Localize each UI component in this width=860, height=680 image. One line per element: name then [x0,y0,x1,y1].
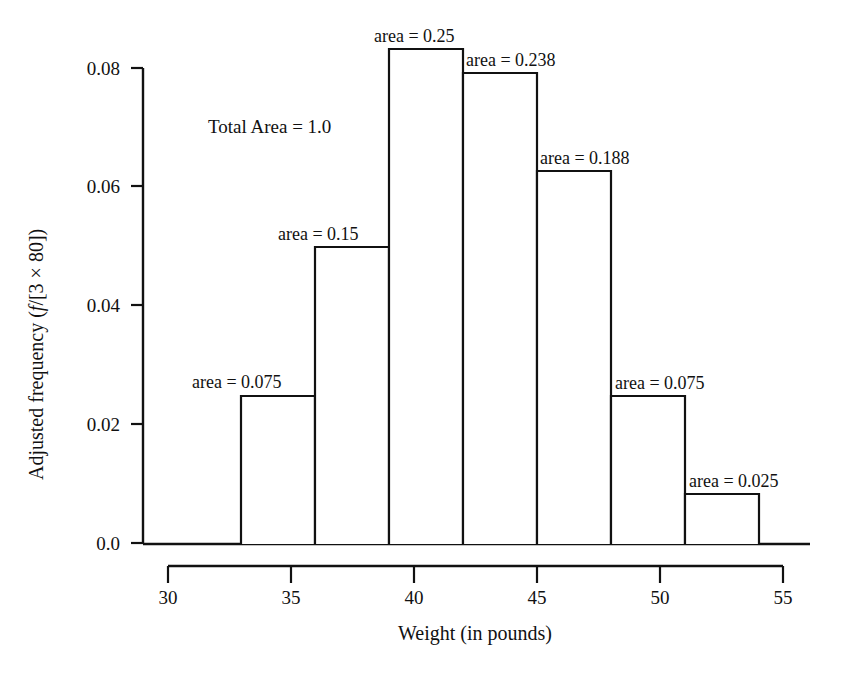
bar-39-42 [389,49,463,544]
x-axis-title: Weight (in pounds) [275,623,675,643]
area-label-bar-5: area = 0.188 [540,149,630,167]
total-area-annotation: Total Area = 1.0 [208,117,331,136]
x-tick-label-55: 55 [753,588,813,607]
area-label-bar-4: area = 0.238 [466,51,556,69]
area-label-bar-7: area = 0.025 [689,472,779,490]
x-axis-ruler [168,566,783,583]
y-tick-label-006: 0.06 [48,177,120,196]
area-label-bar-3: area = 0.25 [374,27,455,45]
bar-45-48 [537,171,611,544]
bar-48-51 [611,396,685,544]
x-tick-label-30: 30 [138,588,198,607]
bar-51-54 [685,494,759,544]
bar-42-45 [463,73,537,544]
y-axis-title-prefix: Adjusted frequency ( [25,311,47,480]
y-axis-title-italic-f: f [25,306,47,312]
y-tick-label-008: 0.08 [48,59,120,78]
bar-36-39 [315,247,389,544]
y-tick-label-004: 0.04 [48,296,120,315]
x-tick-label-35: 35 [261,588,321,607]
bar-33-36 [241,396,315,544]
x-tick-label-40: 40 [384,588,444,607]
area-label-bar-2: area = 0.15 [278,225,359,243]
x-tick-label-50: 50 [630,588,690,607]
area-label-bar-1: area = 0.075 [192,373,282,391]
y-tick-label-002: 0.02 [48,415,120,434]
histogram-plot-area [0,0,860,680]
y-axis-title: Adjusted frequency (f/[3 × 80]) [26,229,46,480]
y-tick-label-000: 0.0 [48,534,120,553]
area-label-bar-6: area = 0.075 [615,374,705,392]
y-axis-title-suffix: /[3 × 80]) [25,229,47,306]
histogram-figure: 0.08 0.06 0.04 0.02 0.0 30 35 40 45 50 5… [0,0,860,680]
x-tick-label-45: 45 [507,588,567,607]
